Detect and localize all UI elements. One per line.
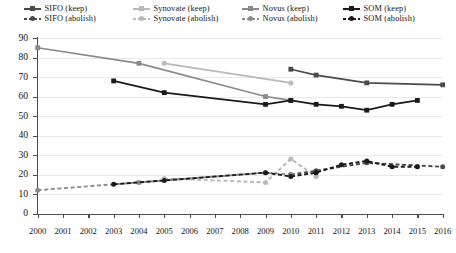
data-point-marker bbox=[314, 170, 319, 175]
data-point-marker bbox=[314, 73, 319, 78]
data-point-marker bbox=[137, 61, 142, 66]
data-point-marker bbox=[364, 108, 369, 113]
data-point-marker bbox=[440, 164, 445, 169]
data-point-marker bbox=[314, 102, 319, 107]
data-point-marker bbox=[263, 180, 268, 185]
data-point-marker bbox=[415, 98, 420, 103]
data-series bbox=[162, 61, 294, 86]
data-series bbox=[288, 67, 445, 87]
data-point-marker bbox=[440, 82, 445, 87]
data-point-marker bbox=[364, 158, 369, 163]
data-point-marker bbox=[111, 79, 116, 84]
data-point-marker bbox=[263, 102, 268, 107]
data-point-marker bbox=[339, 104, 344, 109]
data-point-marker bbox=[288, 156, 293, 161]
data-point-marker bbox=[162, 178, 167, 183]
data-point-marker bbox=[263, 94, 268, 99]
data-point-marker bbox=[288, 67, 293, 72]
data-point-marker bbox=[35, 188, 40, 193]
data-point-marker bbox=[288, 98, 293, 103]
data-point-marker bbox=[288, 80, 293, 85]
data-point-marker bbox=[364, 80, 369, 85]
data-point-marker bbox=[288, 174, 293, 179]
data-series bbox=[162, 156, 319, 184]
data-point-marker bbox=[35, 45, 40, 50]
data-point-marker bbox=[162, 90, 167, 95]
data-point-marker bbox=[390, 164, 395, 169]
data-point-marker bbox=[111, 182, 116, 187]
data-point-marker bbox=[415, 164, 420, 169]
data-point-marker bbox=[390, 102, 395, 107]
data-point-marker bbox=[339, 162, 344, 167]
data-point-marker bbox=[162, 61, 167, 66]
data-point-marker bbox=[263, 170, 268, 175]
series-line bbox=[164, 63, 291, 83]
